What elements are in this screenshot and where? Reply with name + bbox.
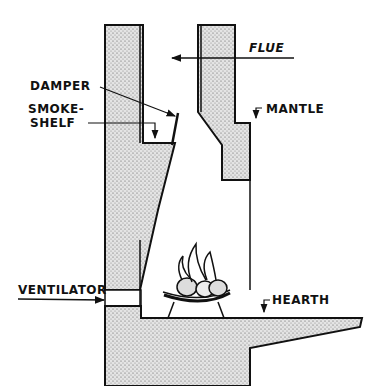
hearth — [105, 306, 362, 386]
fireplace-diagram: FLUE DAMPER SMOKE- SHELF MANTLE VENTILAT… — [0, 0, 382, 386]
fire-grate — [163, 244, 230, 318]
svg-text:DAMPER: DAMPER — [30, 79, 90, 93]
label-hearth: HEARTH — [264, 293, 329, 312]
damper — [172, 113, 178, 145]
svg-text:SMOKE-: SMOKE- — [28, 102, 84, 116]
svg-text:MANTLE: MANTLE — [266, 102, 324, 116]
label-ventilator: VENTILATOR — [18, 283, 107, 300]
svg-text:SHELF: SHELF — [30, 116, 75, 130]
svg-text:VENTILATOR: VENTILATOR — [18, 283, 107, 297]
right-wall — [198, 25, 250, 290]
label-mantle: MANTLE — [256, 102, 324, 118]
svg-text:HEARTH: HEARTH — [272, 293, 329, 307]
ventilator-duct — [105, 290, 141, 306]
svg-text:FLUE: FLUE — [249, 41, 284, 55]
